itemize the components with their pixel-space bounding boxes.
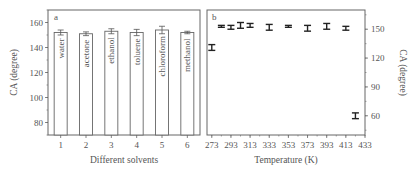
panel-letter-b: b (212, 12, 217, 22)
plot-frame-a (48, 10, 200, 135)
y-tick-label: 60 (371, 111, 381, 121)
x-tick-label: 373 (301, 140, 315, 150)
y-tick-label: 150 (371, 24, 385, 34)
y-tick-label: 120 (30, 68, 44, 78)
panel-b: 6090120150273293313333353373393413433bTe… (205, 10, 408, 166)
panel-a: 80100120140160water1acetone2ethanol3tolu… (9, 10, 200, 165)
x-axis-title-b: Temperature (K) (254, 155, 317, 166)
y-axis-title-a: CA (degree) (9, 49, 20, 96)
x-tick-label: 333 (262, 140, 276, 150)
x-tick-label: 5 (160, 140, 165, 150)
x-tick-label: 273 (205, 140, 219, 150)
x-tick-label: 3 (109, 140, 114, 150)
bar-label: water (56, 39, 66, 59)
x-tick-label: 4 (134, 140, 139, 150)
y-tick-label: 80 (34, 118, 44, 128)
panel-letter-a: a (54, 12, 58, 22)
bar-label: chloroform (157, 36, 167, 77)
y-tick-label: 100 (30, 93, 44, 103)
y-tick-label: 160 (30, 18, 44, 28)
x-tick-label: 353 (282, 140, 296, 150)
x-tick-label: 293 (224, 140, 238, 150)
bar-label: methanol (182, 38, 192, 72)
x-tick-label: 393 (320, 140, 334, 150)
bar-label: ethanol (106, 37, 116, 64)
y-tick-label: 90 (371, 82, 381, 92)
x-axis-title-a: Different solvents (90, 155, 158, 165)
x-tick-label: 433 (358, 140, 372, 150)
x-tick-label: 1 (58, 140, 63, 150)
x-tick-label: 413 (339, 140, 353, 150)
y-tick-label: 120 (371, 53, 385, 63)
x-tick-label: 2 (84, 140, 89, 150)
y-axis-title-b: CA (degree) (397, 49, 408, 96)
x-tick-label: 313 (243, 140, 257, 150)
x-tick-label: 6 (185, 140, 190, 150)
bar-label: acetone (81, 40, 91, 67)
chart-figure: 80100120140160water1acetone2ethanol3tolu… (0, 0, 409, 173)
y-tick-label: 140 (30, 43, 44, 53)
bar-label: toluene (132, 39, 142, 66)
